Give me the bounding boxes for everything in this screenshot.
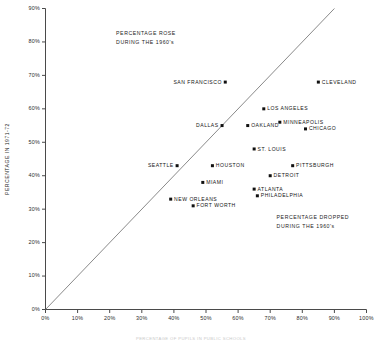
point-label: SAN FRANCISCO: [173, 79, 221, 85]
data-point: NEW ORLEANS: [169, 196, 217, 202]
x-tick-label: 20%: [104, 315, 116, 321]
point-label: NEW ORLEANS: [174, 196, 217, 202]
x-tick-label: 0%: [41, 315, 49, 321]
y-axis-title-text: PERCENTAGE IN 1971-72: [4, 123, 10, 195]
point-marker: [211, 164, 214, 167]
data-point: ATLANTA: [253, 186, 284, 192]
point-label: CLEVELAND: [322, 79, 357, 85]
y-tick-label: 60%: [28, 105, 40, 111]
point-label: SEATTLE: [148, 162, 174, 168]
point-marker: [169, 198, 172, 201]
point-marker: [269, 174, 272, 177]
point-label: PITTSBURGH: [296, 162, 334, 168]
point-label: MINNEAPOLIS: [283, 119, 323, 125]
point-label: DETROIT: [274, 172, 300, 178]
y-tick-label: 90%: [28, 5, 40, 11]
data-point: DALLAS: [196, 122, 223, 128]
annotation-line: PERCENTAGE DROPPED: [277, 214, 349, 220]
point-label: CHICAGO: [309, 125, 336, 131]
point-label: ATLANTA: [258, 186, 284, 192]
point-marker: [304, 127, 307, 130]
x-tick-label: 60%: [232, 315, 244, 321]
point-marker: [256, 194, 259, 197]
x-tick-label: 50%: [200, 315, 212, 321]
data-point: PITTSBURGH: [291, 162, 334, 168]
y-tick-label: 30%: [28, 206, 40, 212]
y-tick-label: 0%: [32, 306, 40, 312]
data-point: OAKLAND: [246, 122, 279, 128]
data-point: MINNEAPOLIS: [278, 119, 323, 125]
point-marker: [291, 164, 294, 167]
data-point: DETROIT: [269, 172, 300, 178]
caption-text: PERCENTAGE OF PUPILS IN PUBLIC SCHOOLS: [136, 336, 246, 341]
point-marker: [221, 124, 224, 127]
y-tick-label: 20%: [28, 239, 40, 245]
data-point: CLEVELAND: [317, 79, 357, 85]
x-tick-label: 70%: [264, 315, 276, 321]
chart-canvas: 0%10%20%30%40%50%60%70%80%90% 0%10%20%30…: [0, 0, 375, 344]
point-marker: [262, 107, 265, 110]
point-label: FORT WORTH: [197, 202, 236, 208]
point-marker: [201, 181, 204, 184]
data-point: LOS ANGELES: [262, 105, 308, 111]
point-marker: [224, 81, 227, 84]
point-marker: [192, 204, 195, 207]
x-tick-label: 80%: [297, 315, 309, 321]
y-tick-label: 80%: [28, 38, 40, 44]
y-tick-label: 50%: [28, 139, 40, 145]
annotation-line: PERCENTAGE ROSE: [116, 30, 176, 36]
scatter-chart: 0%10%20%30%40%50%60%70%80%90% 0%10%20%30…: [0, 0, 375, 344]
axes-group: [46, 9, 367, 310]
data-point: SEATTLE: [148, 162, 179, 168]
data-point: FORT WORTH: [192, 202, 236, 208]
point-marker: [253, 188, 256, 191]
percentage-rose-note: PERCENTAGE ROSEDURING THE 1960's: [116, 30, 176, 45]
identity-diagonal-line: [46, 9, 335, 310]
point-label: MIAMI: [206, 179, 223, 185]
data-point: SAN FRANCISCO: [173, 79, 226, 85]
point-label: LOS ANGELES: [267, 105, 308, 111]
point-label: DALLAS: [196, 122, 219, 128]
point-label: PHILADELPHIA: [261, 192, 304, 198]
y-tick-label: 70%: [28, 72, 40, 78]
y-axis-ticks: 0%10%20%30%40%50%60%70%80%90%: [28, 5, 45, 312]
point-marker: [253, 147, 256, 150]
data-point: CHICAGO: [304, 125, 336, 131]
point-label: OAKLAND: [251, 122, 279, 128]
percentage-dropped-note: PERCENTAGE DROPPEDDURING THE 1960's: [277, 214, 349, 229]
x-tick-label: 100%: [359, 315, 374, 321]
y-axis-title: PERCENTAGE IN 1971-72: [4, 123, 10, 195]
x-tick-label: 40%: [168, 315, 180, 321]
x-tick-label: 90%: [329, 315, 341, 321]
data-point: MIAMI: [201, 179, 223, 185]
point-label: ST. LOUIS: [258, 146, 287, 152]
identity-diagonal: [46, 9, 335, 310]
point-marker: [246, 124, 249, 127]
point-marker: [317, 81, 320, 84]
x-axis-ticks: 0%10%20%30%40%50%60%70%80%90%100%: [41, 310, 374, 321]
data-point: HOUSTON: [211, 162, 245, 168]
x-tick-label: 30%: [136, 315, 148, 321]
x-tick-label: 10%: [72, 315, 84, 321]
point-marker: [176, 164, 179, 167]
data-points-group: SAN FRANCISCOCLEVELANDLOS ANGELESMINNEAP…: [148, 79, 357, 209]
y-tick-label: 40%: [28, 172, 40, 178]
data-point: PHILADELPHIA: [256, 192, 304, 198]
annotation-line: DURING THE 1960's: [116, 39, 174, 45]
annotation-line: DURING THE 1960's: [277, 223, 335, 229]
y-tick-label: 10%: [28, 272, 40, 278]
figure-caption: PERCENTAGE OF PUPILS IN PUBLIC SCHOOLS: [136, 336, 246, 341]
point-label: HOUSTON: [216, 162, 245, 168]
data-point: ST. LOUIS: [253, 146, 287, 152]
